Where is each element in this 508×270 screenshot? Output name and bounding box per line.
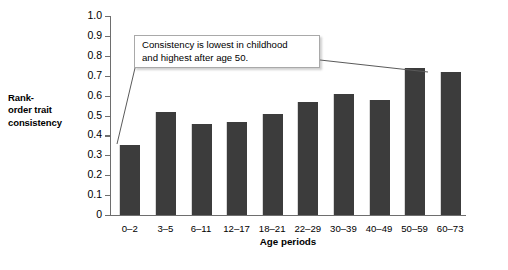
y-axis-tick: 0.3	[105, 155, 110, 156]
y-axis-tick: 0.2	[105, 175, 110, 176]
x-axis-tick-label: 12–17	[219, 223, 255, 234]
x-axis-tick-label: 40–49	[361, 223, 397, 234]
y-axis-tick: 0.1	[105, 195, 110, 196]
x-axis-tick-label: 30–39	[326, 223, 362, 234]
y-axis-tick-label: 0.5	[87, 109, 102, 121]
y-axis-tick: 0.8	[105, 56, 110, 57]
y-axis-tick: 0.6	[105, 96, 110, 97]
x-axis-tick-label: 60–73	[432, 223, 468, 234]
y-axis-tick-label: 0.7	[87, 69, 102, 81]
x-axis-tick-label: 22–29	[290, 223, 326, 234]
callout-line-2: and highest after age 50.	[142, 52, 313, 65]
bar	[226, 122, 247, 216]
y-axis-tick: 0.7	[105, 76, 110, 77]
y-axis-tick-label: 0	[96, 208, 102, 220]
x-axis-tick-label: 6–11	[183, 223, 219, 234]
bar	[440, 72, 461, 215]
consistency-callout: Consistency is lowest in childhood and h…	[134, 35, 320, 68]
y-axis-tick-label: 0.1	[87, 188, 102, 200]
x-axis-tick-label: 50–59	[397, 223, 433, 234]
y-axis-tick: 1.0	[105, 16, 110, 17]
y-axis-tick-label: 0.3	[87, 148, 102, 160]
y-axis-tick-label: 1.0	[87, 9, 102, 21]
x-axis-line	[110, 215, 466, 216]
x-axis-tick-label: 18–21	[254, 223, 290, 234]
bar	[262, 114, 283, 216]
y-axis-title-line-2: order trait	[8, 104, 90, 116]
bar	[404, 68, 425, 215]
y-axis-title: Rank- order trait consistency	[8, 92, 90, 129]
x-axis-title: Age periods	[110, 236, 466, 247]
y-axis-tick-label: 0.9	[87, 29, 102, 41]
y-axis-tick-label: 0.8	[87, 49, 102, 61]
y-axis-line	[110, 16, 111, 215]
bar	[119, 145, 140, 215]
y-axis-tick-label: 0.4	[87, 128, 102, 140]
bar	[369, 100, 390, 215]
bar	[155, 112, 176, 216]
bar	[297, 102, 318, 215]
y-axis-tick-label: 0.6	[87, 89, 102, 101]
bar	[333, 94, 354, 215]
x-axis-tick-label: 3–5	[148, 223, 184, 234]
y-axis-tick: 0.5	[105, 116, 110, 117]
y-axis-title-line-1: Rank-	[8, 92, 90, 104]
bar	[191, 124, 212, 216]
bar-chart-figure: Rank- order trait consistency 1.00.90.80…	[0, 0, 508, 270]
y-axis-tick: 0.4	[105, 135, 110, 136]
y-axis-tick: 0	[105, 215, 110, 216]
x-axis-tick-label: 0–2	[112, 223, 148, 234]
callout-line-1: Consistency is lowest in childhood	[142, 39, 313, 52]
y-axis-title-line-3: consistency	[8, 117, 90, 129]
y-axis-tick-label: 0.2	[87, 168, 102, 180]
y-axis-tick: 0.9	[105, 36, 110, 37]
